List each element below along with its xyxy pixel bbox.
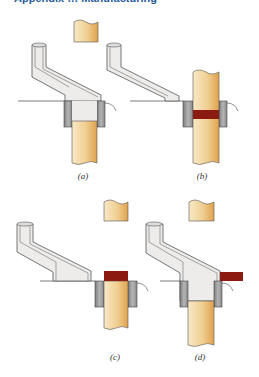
panel-a [18,20,116,165]
label-b: (b) [187,171,217,181]
feed-shoe [32,45,101,101]
label-c: (c) [100,352,130,362]
powder-compaction-diagram [0,0,259,377]
die-right [97,101,105,127]
pushed-compact [220,272,243,281]
panel-d [146,200,243,347]
die-left [64,101,72,127]
panel-c [17,200,148,330]
ejected-compact [104,271,128,281]
label-a: (a) [68,171,98,181]
label-d: (d) [185,352,215,362]
upper-punch [74,20,98,42]
compact [193,110,219,119]
lower-punch [72,121,97,165]
panel-b [107,43,238,165]
